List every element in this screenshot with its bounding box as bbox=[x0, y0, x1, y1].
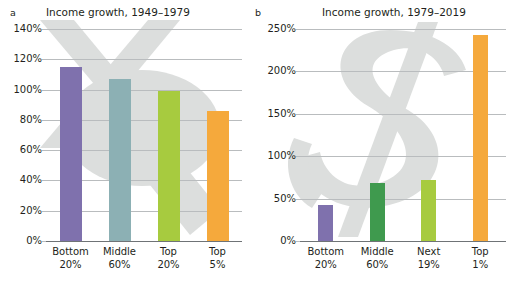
y-axis-tick-label: 20% bbox=[20, 206, 42, 216]
y-axis-tick-label: 60% bbox=[20, 145, 42, 155]
x-axis-label-line: 60% bbox=[352, 259, 404, 272]
x-axis-label: Middle60% bbox=[95, 246, 144, 271]
y-axis-tick-label: 140% bbox=[13, 24, 42, 34]
bar-cell bbox=[403, 29, 455, 241]
x-axis-labels-b: Bottom20%Middle60%Next19%Top1% bbox=[300, 246, 506, 271]
y-axis-tick-label: 250% bbox=[267, 24, 296, 34]
chart-panel-b: b Income growth, 1979–2019 0%50%100%150%… bbox=[252, 0, 515, 286]
x-axis-label-line: Next bbox=[403, 246, 455, 259]
bar-cell bbox=[193, 29, 242, 241]
x-axis-label: Top5% bbox=[193, 246, 242, 271]
y-axis-tick-label: 200% bbox=[267, 66, 296, 76]
y-axis-tick-label: 0% bbox=[280, 236, 296, 246]
x-axis-label-line: Bottom bbox=[46, 246, 95, 259]
bar-bottom-20[interactable] bbox=[318, 205, 333, 241]
y-axis-tick-label: 40% bbox=[20, 175, 42, 185]
y-axis-tick-label: 0% bbox=[26, 236, 42, 246]
x-axis-label: Bottom20% bbox=[300, 246, 352, 271]
bar-cell bbox=[300, 29, 352, 241]
panel-letter-b: b bbox=[255, 7, 261, 18]
chart-panel-a: a Income growth, 1949–1979 0%20%40%60%80… bbox=[0, 0, 252, 286]
y-axis-tick-label: 150% bbox=[267, 109, 296, 119]
bar-next-19[interactable] bbox=[421, 180, 436, 241]
x-axis-label-line: 20% bbox=[46, 259, 95, 272]
bar-group-a bbox=[46, 29, 242, 241]
plot-area-a: 0%20%40%60%80%100%120%140% bbox=[46, 29, 242, 241]
y-axis-tick-label: 120% bbox=[13, 54, 42, 64]
bar-cell bbox=[144, 29, 193, 241]
bar-cell bbox=[95, 29, 144, 241]
bar-cell bbox=[455, 29, 507, 241]
x-axis-labels-a: Bottom20%Middle60%Top20%Top5% bbox=[46, 246, 242, 271]
bar-cell bbox=[46, 29, 95, 241]
x-axis-label: Bottom20% bbox=[46, 246, 95, 271]
x-axis-label-line: 5% bbox=[193, 259, 242, 272]
x-axis-label-line: 20% bbox=[300, 259, 352, 272]
bar-bottom-20[interactable] bbox=[60, 67, 82, 241]
y-axis-tick-label: 100% bbox=[13, 85, 42, 95]
bar-top-20[interactable] bbox=[158, 91, 180, 241]
x-axis-label: Next19% bbox=[403, 246, 455, 271]
y-axis-tick-label: 50% bbox=[274, 194, 296, 204]
x-axis-label-line: Top bbox=[193, 246, 242, 259]
income-growth-figure: a Income growth, 1949–1979 0%20%40%60%80… bbox=[0, 0, 515, 286]
gridline bbox=[300, 241, 506, 242]
gridline bbox=[46, 241, 242, 242]
y-axis-tick-label: 100% bbox=[267, 151, 296, 161]
chart-title-a: Income growth, 1949–1979 bbox=[46, 6, 190, 18]
x-axis-label-line: 60% bbox=[95, 259, 144, 272]
x-axis-label-line: Top bbox=[144, 246, 193, 259]
bar-group-b bbox=[300, 29, 506, 241]
bar-middle-60[interactable] bbox=[109, 79, 131, 241]
y-axis-tick-label: 80% bbox=[20, 115, 42, 125]
x-axis-label: Middle60% bbox=[352, 246, 404, 271]
plot-area-b: 0%50%100%150%200%250% bbox=[300, 29, 506, 241]
panel-letter-a: a bbox=[10, 7, 16, 18]
x-axis-label: Top1% bbox=[455, 246, 507, 271]
bar-cell bbox=[352, 29, 404, 241]
x-axis-label-line: 19% bbox=[403, 259, 455, 272]
y-axis-tick-mark bbox=[296, 241, 300, 242]
x-axis-label-line: 1% bbox=[455, 259, 507, 272]
x-axis-label-line: 20% bbox=[144, 259, 193, 272]
x-axis-label-line: Middle bbox=[352, 246, 404, 259]
x-axis-label-line: Bottom bbox=[300, 246, 352, 259]
x-axis-label-line: Middle bbox=[95, 246, 144, 259]
bar-top-1[interactable] bbox=[473, 35, 488, 241]
bar-top-5[interactable] bbox=[207, 111, 229, 241]
x-axis-label: Top20% bbox=[144, 246, 193, 271]
chart-title-b: Income growth, 1979–2019 bbox=[322, 6, 466, 18]
bar-middle-60[interactable] bbox=[370, 183, 385, 241]
x-axis-label-line: Top bbox=[455, 246, 507, 259]
y-axis-tick-mark bbox=[42, 241, 46, 242]
